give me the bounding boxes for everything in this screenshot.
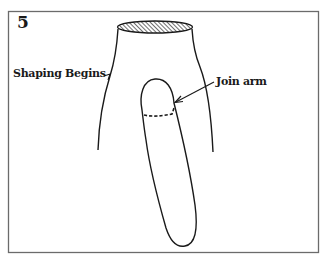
body-outline-left <box>98 29 118 150</box>
neck-opening-hatched-ellipse <box>118 21 193 33</box>
sleeve-outline <box>141 79 196 246</box>
figure-frame <box>9 12 319 253</box>
step-number: 5 <box>17 14 29 31</box>
body-outline-right <box>192 29 213 152</box>
sweater-body-sleeve-diagram <box>0 0 329 259</box>
sleeve-join-dashed-line <box>144 108 174 116</box>
label-join-arm: Join arm <box>216 76 267 87</box>
label-shaping-begins: Shaping Begins <box>13 68 106 79</box>
